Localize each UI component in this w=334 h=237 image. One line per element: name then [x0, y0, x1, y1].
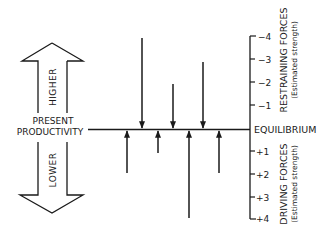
tick-plus-1: +1 [256, 147, 269, 157]
restraining-forces-subtitle: (Estimated strength) [290, 21, 299, 99]
tick-minus-3: −3 [258, 55, 271, 65]
present-label: PRESENT [33, 116, 74, 126]
driving-forces-subtitle: (Estimated strength) [290, 145, 299, 223]
lower-label: LOWER [48, 152, 58, 187]
tick-plus-3: +3 [256, 193, 269, 203]
tick-minus-4: −4 [258, 32, 272, 42]
higher-label: HIGHER [48, 68, 58, 106]
tick-minus-1: −1 [258, 101, 271, 111]
force-field-diagram: HIGHER LOWER PRESENT PRODUCTIVITY −4 −3 … [0, 0, 334, 237]
tick-plus-2: +2 [256, 170, 269, 180]
productivity-label: PRODUCTIVITY [17, 127, 84, 137]
driving-forces-title: DRIVING FORCES [278, 143, 289, 224]
tick-minus-2: −2 [258, 78, 271, 88]
restraining-forces-title: RESTRAINING FORCES [278, 7, 289, 112]
equilibrium-label: EQUILIBRIUM [254, 124, 316, 135]
tick-plus-4: +4 [256, 214, 270, 224]
